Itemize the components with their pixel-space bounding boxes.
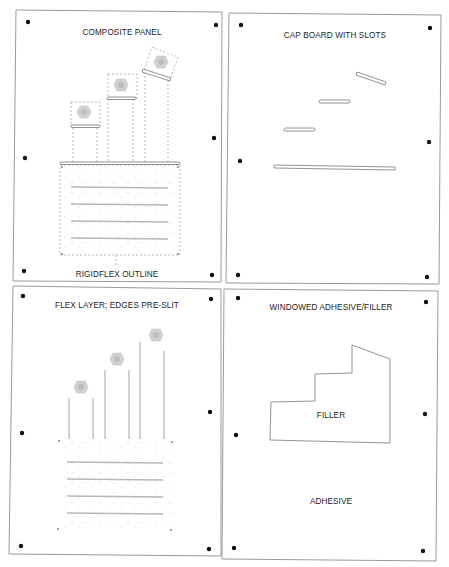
fabrication-diagram: COMPOSITE PANEL	[0, 0, 449, 567]
chip-icon	[149, 329, 163, 341]
panel-title: CAP BOARD WITH SLOTS	[284, 31, 387, 40]
panel-caption: RIGIDFLEX OUTLINE	[76, 270, 159, 279]
registration-dot	[238, 159, 242, 163]
registration-dot	[424, 300, 428, 304]
registration-dot	[207, 547, 211, 551]
panel-border	[226, 13, 441, 284]
rigidflex-body	[61, 166, 179, 254]
registration-dot	[21, 294, 25, 298]
panel-title: WINDOWED ADHESIVE/FILLER	[270, 303, 393, 312]
filler-label: FILLER	[317, 411, 345, 420]
panel-adhesive-filler: WINDOWED ADHESIVE/FILLER FILLER ADHESIVE	[222, 289, 438, 561]
chip-icon	[110, 353, 124, 365]
registration-dot	[421, 549, 425, 553]
registration-dot	[23, 156, 27, 160]
registration-dot	[20, 431, 24, 435]
registration-dot	[208, 410, 212, 414]
slot	[319, 100, 350, 103]
panel-title: COMPOSITE PANEL	[82, 28, 161, 37]
registration-dot	[234, 433, 238, 437]
registration-dot	[209, 297, 213, 301]
flex-body	[59, 441, 172, 529]
registration-dot	[22, 269, 26, 273]
chip-icon	[154, 56, 168, 68]
registration-dot	[425, 275, 429, 279]
panel-composite: COMPOSITE PANEL	[13, 10, 222, 282]
slot	[284, 128, 315, 131]
chip-icon	[77, 106, 91, 118]
registration-dot	[427, 140, 431, 144]
registration-dot	[26, 20, 30, 24]
registration-dot	[423, 412, 427, 416]
registration-dot	[212, 136, 216, 140]
registration-dot	[19, 544, 23, 548]
registration-dot	[236, 296, 240, 300]
panel-flex-layer: FLEX LAYER; EDGES PRE-SLIT	[9, 286, 221, 556]
registration-dot	[236, 273, 240, 277]
panel-title: FLEX LAYER; EDGES PRE-SLIT	[55, 301, 179, 310]
chip-icon	[114, 79, 128, 91]
registration-dot	[239, 23, 243, 27]
panel-cap-board: CAP BOARD WITH SLOTS	[226, 13, 441, 284]
registration-dot	[214, 23, 218, 27]
registration-dot	[210, 273, 214, 277]
adhesive-label: ADHESIVE	[310, 497, 353, 506]
registration-dot	[428, 26, 432, 30]
registration-dot	[232, 546, 236, 550]
chip-icon	[74, 381, 88, 393]
